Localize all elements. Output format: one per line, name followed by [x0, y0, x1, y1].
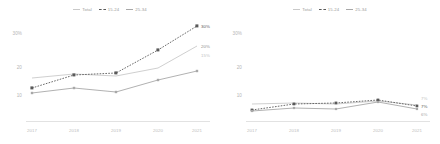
end-label-25-34: 6%	[421, 112, 428, 117]
chart-panel-right: Total 15-24 25-34 30% 20 10	[220, 0, 440, 144]
chart-panel-left: Total 15-24 25-34 30% 20 10	[0, 0, 220, 144]
end-label-15-24: 30%	[201, 24, 210, 29]
legend-label-total: Total	[302, 7, 312, 12]
x-tick-label-2018: 2018	[289, 128, 299, 133]
x-tick-label-2021: 2021	[192, 128, 202, 133]
legend-label-total: Total	[82, 7, 92, 12]
x-axis-line	[246, 121, 430, 122]
x-tick-label-2019: 2019	[111, 128, 121, 133]
legend-label-15-24: 15-24	[108, 7, 120, 12]
end-label-total: 20%	[201, 44, 210, 49]
x-axis-line	[26, 121, 210, 122]
x-tick-label-2017: 2017	[27, 128, 37, 133]
x-tick-label-2020: 2020	[373, 128, 383, 133]
x-tick-label-2017: 2017	[247, 128, 257, 133]
legend-swatch-15-24-icon	[319, 9, 326, 10]
plot-area-left: 30% 20 10	[0, 20, 220, 144]
legend-item-total: Total	[73, 7, 92, 12]
end-label-total: 7%	[421, 96, 428, 101]
legend-label-25-34: 25-34	[355, 7, 367, 12]
legend-swatch-total-icon	[293, 9, 300, 10]
legend-item-25-34: 25-34	[346, 7, 367, 12]
legend-item-15-24: 15-24	[99, 7, 120, 12]
series-lines-right	[220, 20, 440, 144]
series-lines-left	[0, 20, 220, 144]
legend-item-25-34: 25-34	[126, 7, 147, 12]
legend-label-25-34: 25-34	[135, 7, 147, 12]
x-tick-label-2019: 2019	[331, 128, 341, 133]
plot-area-right: 30% 20 10	[220, 20, 440, 144]
legend-right: Total 15-24 25-34	[220, 7, 440, 12]
series-line-15-24	[32, 26, 197, 88]
legend-item-15-24: 15-24	[319, 7, 340, 12]
legend-swatch-25-34-icon	[126, 9, 133, 10]
x-tick-label-2021: 2021	[412, 128, 422, 133]
series-markers-15-24	[30, 24, 198, 89]
legend-label-15-24: 15-24	[328, 7, 340, 12]
end-label-15-24: 7%	[421, 104, 428, 109]
legend-swatch-total-icon	[73, 9, 80, 10]
x-tick-label-2020: 2020	[153, 128, 163, 133]
x-tick-label-2018: 2018	[69, 128, 79, 133]
end-label-25-34: 15%	[201, 53, 210, 58]
legend-swatch-15-24-icon	[99, 9, 106, 10]
dual-line-chart-figure: Total 15-24 25-34 30% 20 10	[0, 0, 440, 144]
legend-left: Total 15-24 25-34	[0, 7, 220, 12]
legend-item-total: Total	[293, 7, 312, 12]
legend-swatch-25-34-icon	[346, 9, 353, 10]
